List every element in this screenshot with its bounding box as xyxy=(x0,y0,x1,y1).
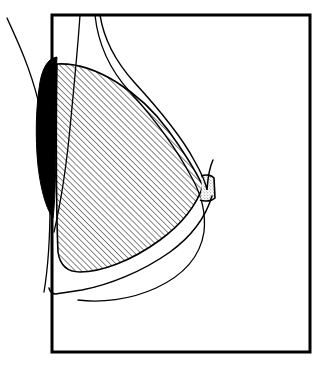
figure-root xyxy=(0,0,325,371)
breast-profile-diagram xyxy=(0,0,325,371)
